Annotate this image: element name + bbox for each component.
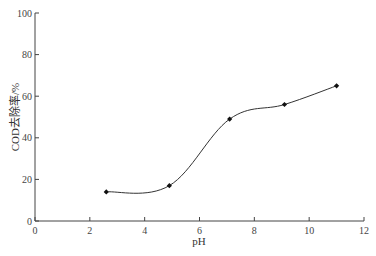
axes: 024681012020406080100 — [17, 8, 369, 237]
x-tick-label: 12 — [359, 225, 369, 236]
data-point-diamond-marker — [334, 83, 339, 88]
chart: 024681012020406080100 pH COD去除率/% — [0, 0, 376, 256]
data-point-diamond-marker — [167, 183, 172, 188]
data-point-diamond-marker — [104, 189, 109, 194]
x-tick-label: 2 — [87, 225, 92, 236]
data-series — [104, 83, 339, 194]
x-tick-label: 4 — [142, 225, 147, 236]
y-tick-label: 0 — [27, 216, 32, 227]
x-axis-label: pH — [192, 235, 206, 247]
data-point-diamond-marker — [282, 102, 287, 107]
y-tick-label: 40 — [22, 132, 32, 143]
x-tick-label: 10 — [304, 225, 314, 236]
y-tick-label: 80 — [22, 49, 32, 60]
y-tick-label: 100 — [17, 8, 32, 19]
x-tick-label: 8 — [252, 225, 257, 236]
series-line — [106, 86, 336, 193]
x-tick-label: 0 — [33, 225, 38, 236]
y-tick-label: 20 — [22, 174, 32, 185]
y-tick-label: 60 — [22, 91, 32, 102]
y-axis-label: COD去除率/% — [8, 83, 21, 151]
